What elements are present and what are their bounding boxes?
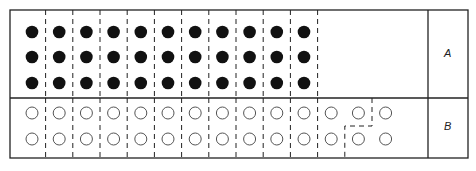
filled-dot: [107, 77, 120, 90]
open-dot: [271, 107, 283, 119]
open-dot: [189, 133, 201, 145]
open-dot: [53, 107, 65, 119]
filled-dot: [53, 77, 66, 90]
outer-frame: [10, 10, 468, 158]
open-dot: [244, 107, 256, 119]
open-dot: [80, 133, 92, 145]
filled-dot: [243, 51, 256, 64]
open-dot: [108, 107, 120, 119]
filled-dot: [26, 51, 39, 64]
row-label-b: B: [444, 120, 451, 132]
open-dot: [244, 133, 256, 145]
filled-dot: [26, 77, 39, 90]
filled-dot: [26, 26, 39, 39]
open-dot: [352, 107, 364, 119]
filled-dot: [189, 26, 202, 39]
filled-dot: [216, 51, 229, 64]
open-dot: [108, 133, 120, 145]
filled-dot: [243, 26, 256, 39]
open-dot: [298, 133, 310, 145]
filled-dot: [271, 26, 284, 39]
filled-dot: [135, 77, 148, 90]
filled-dot: [298, 77, 311, 90]
open-dot: [380, 133, 392, 145]
open-dot: [189, 107, 201, 119]
open-dot: [271, 133, 283, 145]
filled-dot: [271, 77, 284, 90]
open-dot: [80, 107, 92, 119]
open-dot: [325, 133, 337, 145]
open-dot: [26, 133, 38, 145]
filled-dot: [243, 77, 256, 90]
filled-dot: [135, 26, 148, 39]
open-dot: [216, 133, 228, 145]
filled-dot: [298, 51, 311, 64]
filled-dot: [135, 51, 148, 64]
open-dot: [26, 107, 38, 119]
dot-grouping-diagram: A B: [0, 0, 476, 171]
open-dot: [162, 133, 174, 145]
filled-dot: [80, 77, 93, 90]
filled-dot: [53, 26, 66, 39]
filled-dot: [298, 26, 311, 39]
filled-dot: [80, 51, 93, 64]
open-dot: [162, 107, 174, 119]
filled-dot: [80, 26, 93, 39]
row-label-a: A: [444, 47, 451, 59]
open-dot: [325, 107, 337, 119]
filled-dot: [53, 51, 66, 64]
filled-dot: [107, 26, 120, 39]
filled-dot: [107, 51, 120, 64]
open-dot: [352, 133, 364, 145]
open-dot: [298, 107, 310, 119]
open-dot: [216, 107, 228, 119]
diagram-canvas: [0, 0, 476, 171]
filled-dot: [162, 51, 175, 64]
filled-dot: [162, 26, 175, 39]
filled-dot: [189, 77, 202, 90]
filled-dot: [189, 51, 202, 64]
open-dot: [53, 133, 65, 145]
filled-dot: [216, 77, 229, 90]
filled-dot: [271, 51, 284, 64]
open-dot: [380, 107, 392, 119]
open-dot: [135, 107, 147, 119]
filled-dot: [216, 26, 229, 39]
filled-dot: [162, 77, 175, 90]
open-dot: [135, 133, 147, 145]
